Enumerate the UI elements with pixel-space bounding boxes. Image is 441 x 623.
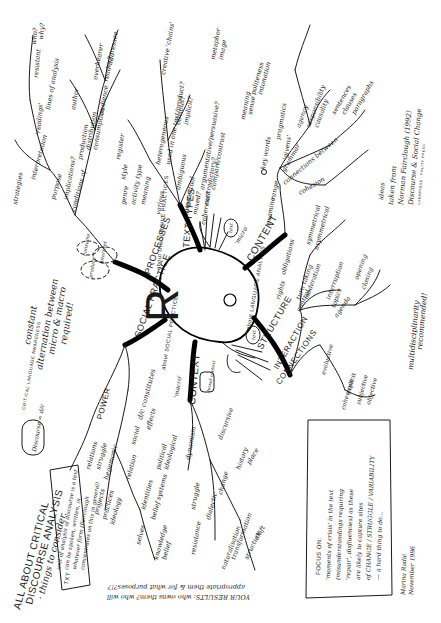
- branch-text: creative 'chains': [159, 21, 176, 75]
- branch-text: consume: [81, 233, 91, 256]
- branch-text: lines of analysis: [44, 57, 61, 111]
- branch-text: pragmatics: [274, 102, 288, 140]
- branch-text: dynamism: [184, 426, 198, 461]
- branch-text: struggle: [189, 482, 202, 511]
- branch-text: selves: [134, 523, 147, 545]
- branch-text: appropriate them & for what purposes?!?: [107, 583, 245, 591]
- annotation-context: 'macro': [172, 375, 183, 399]
- connector-line: [325, 150, 368, 185]
- branch-text: explicit: [344, 371, 358, 395]
- branch-text: POWER: [95, 387, 112, 421]
- branch-text: audience: [97, 84, 110, 115]
- branch-text: resistant: [32, 48, 43, 78]
- branch-text: ideas: [377, 182, 387, 201]
- branch-text: shift: [253, 524, 267, 541]
- branch-text: relation: [124, 454, 138, 481]
- connector-line: [105, 345, 129, 510]
- branch-text: why?: [37, 22, 46, 40]
- connector-line: [295, 25, 310, 70]
- branch-text: belief systems: [149, 473, 169, 521]
- context-subtree: dynamism resistance struggle dialectic c…: [184, 400, 267, 571]
- branch-text: interpretation: [29, 134, 49, 181]
- branch-text: November 1996: [407, 546, 416, 596]
- branch-text: dialectic: [204, 491, 219, 520]
- branch-text: style: [119, 163, 130, 180]
- branch-text: resistance: [189, 520, 203, 555]
- branch-text: author: [69, 87, 81, 111]
- signature: Marina Radić November 1996: [399, 546, 416, 596]
- branch-text: broad context: [206, 360, 216, 392]
- branch-text: obligations: [279, 238, 296, 276]
- connector-line: [188, 400, 240, 540]
- branch-text: cohesion: [297, 175, 326, 196]
- multidisciplinarity-note: multidisciplinarity recommended!: [406, 292, 429, 370]
- results-note: YOUR RESULTS: who owns them? who will ap…: [107, 583, 250, 601]
- branch-text: change: [216, 470, 230, 495]
- branch-text: are likely to capture sites: [354, 502, 365, 580]
- branch-text: range: [269, 180, 280, 200]
- branch-text: social: [129, 425, 142, 445]
- processes-subtree: purpose production distribution consumpt…: [11, 22, 120, 262]
- cloud-structure: text: [246, 326, 260, 344]
- cloud-context: broad context: [200, 360, 217, 392]
- branch-text: ambiguous: [174, 153, 188, 191]
- branch-text: Discourse = d/c: [30, 403, 46, 453]
- branch-text: YOUR RESULTS: who owns them? who will: [107, 593, 250, 601]
- branch-text: text: [250, 329, 257, 340]
- branch-text: reader?: [102, 55, 114, 82]
- branch-text: 'readings': [34, 102, 45, 135]
- connector-line: [128, 120, 150, 160]
- branch-text: discursive: [216, 406, 235, 440]
- branch-text: FOCUS ON:: [315, 537, 322, 575]
- branch-text: text: [227, 222, 234, 233]
- branch-text: strategies: [11, 171, 25, 205]
- branch-text: — a hard thing to do...: [374, 511, 384, 580]
- content-subtree: examine range 'givens' grammar agency re…: [209, 25, 376, 235]
- branch-label-context: CONTEXT: [186, 353, 201, 405]
- branch-text: key words: [259, 135, 273, 170]
- branch-text: register: [114, 132, 127, 160]
- cloud-content: text: [224, 219, 238, 237]
- focus-box: FOCUS ON: 'moments of crisis' in the tex…: [306, 420, 392, 598]
- branch-text: Marina Radić: [399, 553, 407, 596]
- source-note: ideas taken from Norman Fairclough (1992…: [377, 108, 426, 206]
- mind-map: R PROCESSES TEXT TYPES CONTENT STRUCTURE…: [0, 0, 441, 623]
- structure-subtree: INTERACTION rights obligations symmetric…: [272, 204, 390, 410]
- branch-text: TXT: [63, 571, 71, 585]
